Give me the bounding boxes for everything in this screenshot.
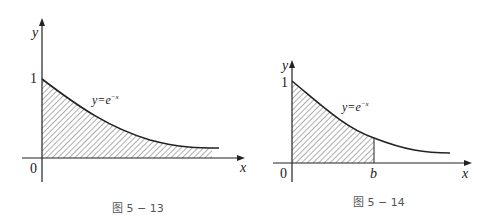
figures-canvas: y x 1 0 y=e−x 图 5 − 13 y x 1 0 b y=e−x 图… xyxy=(0,0,488,224)
figure-5-13: y x 1 0 y=e−x 图 5 − 13 xyxy=(22,18,247,215)
y-axis-arrow-icon xyxy=(289,60,295,68)
y-axis-label: y xyxy=(280,58,289,73)
x-axis-label: x xyxy=(461,166,469,181)
origin-label: 0 xyxy=(30,161,37,176)
origin-label: 0 xyxy=(280,166,287,181)
caption: 图 5 − 14 xyxy=(353,196,405,209)
y-tick-label: 1 xyxy=(30,71,37,86)
y-tick-label: 1 xyxy=(281,75,288,90)
caption: 图 5 − 13 xyxy=(112,202,164,215)
y-axis-label: y xyxy=(30,25,39,40)
curve-label: y=e−x xyxy=(91,93,119,107)
figure-5-14: y x 1 0 b y=e−x 图 5 − 14 xyxy=(273,58,472,209)
y-axis-arrow-icon xyxy=(39,18,45,26)
b-label: b xyxy=(370,166,377,181)
x-axis-label: x xyxy=(239,160,247,175)
curve-label: y=e−x xyxy=(341,100,369,114)
